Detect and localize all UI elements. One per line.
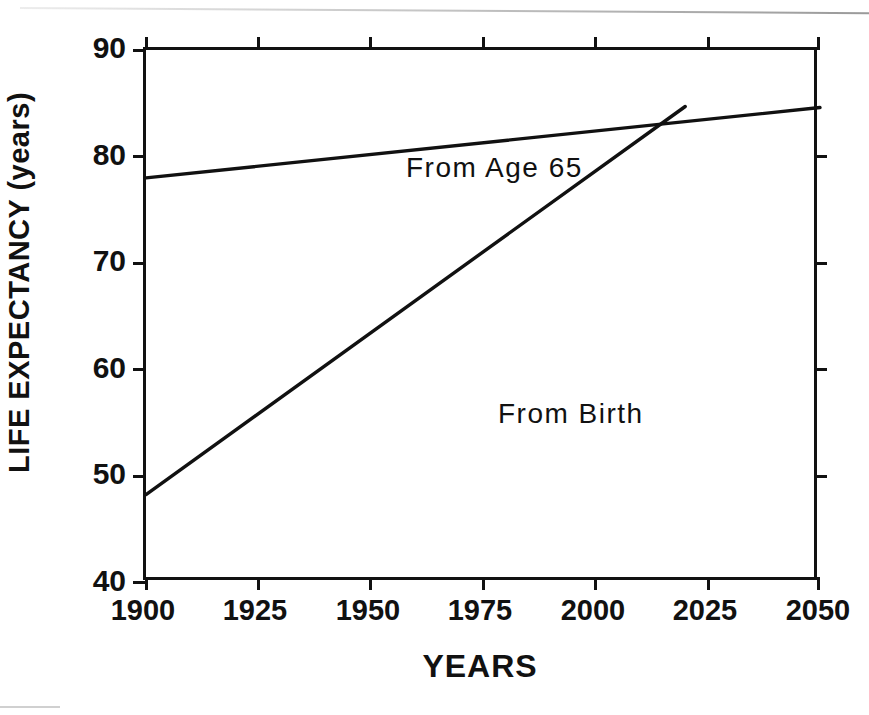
x-tick-2050-top — [817, 37, 820, 50]
figure-caption-sliver — [28, 709, 588, 715]
y-tick-label-50: 50 — [56, 457, 126, 491]
x-tick-1950-top — [369, 37, 372, 50]
y-axis-title: LIFE EXPECTANCY (years) — [3, 3, 36, 563]
scan-artifact-rule-top — [20, 7, 869, 14]
plot-area: From Age 65 From Birth — [143, 47, 817, 580]
y-tick-label-40: 40 — [56, 564, 126, 598]
scan-artifact-rule-bottom — [0, 706, 60, 708]
y-tick-label-90: 90 — [56, 31, 126, 65]
x-tick-label-1900: 1900 — [88, 594, 198, 627]
y-tick-label-60: 60 — [56, 351, 126, 385]
series-annotation-from-age-65: From Age 65 — [406, 152, 583, 184]
y-tick-60-left — [133, 368, 146, 371]
y-tick-80-left — [133, 155, 146, 158]
x-tick-label-1925: 1925 — [200, 594, 310, 627]
y-tick-label-70: 70 — [56, 244, 126, 278]
x-tick-label-2050: 2050 — [763, 594, 869, 627]
figure-container: LIFE EXPECTANCY (years) 90 80 70 60 50 4… — [0, 0, 869, 715]
chart-series-layer — [146, 50, 820, 583]
x-tick-1900-top — [145, 37, 148, 50]
y-tick-70-left — [133, 262, 146, 265]
x-tick-2000-top — [594, 37, 597, 50]
y-tick-50-left — [133, 475, 146, 478]
x-axis-title: YEARS — [143, 648, 817, 685]
x-tick-label-2000: 2000 — [538, 594, 648, 627]
x-tick-label-1975: 1975 — [425, 594, 535, 627]
x-tick-1975-top — [482, 37, 485, 50]
x-tick-1925-top — [257, 37, 260, 50]
x-tick-2025-top — [707, 37, 710, 50]
series-annotation-from-birth: From Birth — [498, 398, 644, 430]
y-tick-label-80: 80 — [56, 138, 126, 172]
x-tick-label-2025: 2025 — [650, 594, 760, 627]
x-tick-label-1950: 1950 — [313, 594, 423, 627]
